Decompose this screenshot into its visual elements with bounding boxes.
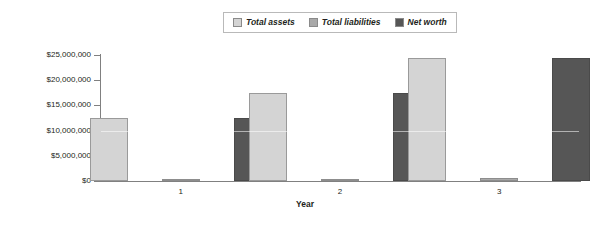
x-axis-label-year-1: 1 (161, 187, 201, 196)
y-axis-tick-label: $10,000,000 (0, 127, 91, 135)
bar-total-liabilities-year-2 (321, 179, 359, 181)
x-axis-label-year-2: 2 (320, 187, 360, 196)
legend-item-total-assets: Total assets (233, 18, 295, 27)
legend-item-total-liabilities: Total liabilities (309, 18, 381, 27)
bar-total-assets-year-2 (249, 93, 287, 181)
y-axis-tick-label: $20,000,000 (0, 76, 91, 84)
x-axis-label-year-3: 3 (479, 187, 519, 196)
y-axis-tick-label: $5,000,000 (0, 152, 91, 160)
y-axis-tick (94, 105, 100, 106)
x-axis-line (100, 181, 581, 182)
bar-total-liabilities-year-3 (480, 178, 518, 181)
legend-swatch-total-assets (233, 18, 242, 27)
legend-swatch-net-worth (395, 18, 404, 27)
y-axis-tick (94, 55, 100, 56)
y-axis-tick (94, 181, 100, 182)
legend-label-net-worth: Net worth (408, 18, 447, 27)
legend-label-total-liabilities: Total liabilities (322, 18, 381, 27)
bar-total-assets-year-3 (408, 58, 446, 181)
legend-item-net-worth: Net worth (395, 18, 447, 27)
plot-area (101, 55, 579, 181)
x-axis-title: Year (0, 199, 610, 209)
legend-swatch-total-liabilities (309, 18, 318, 27)
chart-legend: Total assets Total liabilities Net worth (223, 12, 457, 33)
y-axis-tick-label: $0 (0, 177, 91, 185)
bar-total-assets-year-1 (90, 118, 128, 181)
y-axis-tick-label: $15,000,000 (0, 101, 91, 109)
y-axis-tick-label: $25,000,000 (0, 51, 91, 59)
y-axis-tick (94, 80, 100, 81)
legend-label-total-assets: Total assets (246, 18, 295, 27)
bar-net-worth-year-3 (552, 58, 590, 181)
bar-total-liabilities-year-1 (162, 179, 200, 181)
bar-chart: Total assets Total liabilities Net worth… (0, 0, 610, 230)
